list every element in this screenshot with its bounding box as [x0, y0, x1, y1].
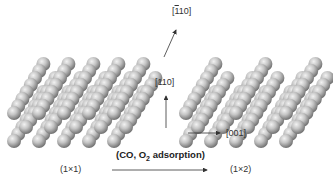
atom-sphere	[291, 120, 305, 134]
atom-sphere	[7, 134, 21, 148]
process-suffix: adsorption)	[150, 149, 205, 160]
atom-sphere	[266, 120, 280, 134]
atom-sphere	[254, 134, 268, 148]
atom-sphere	[107, 134, 121, 148]
atom-sphere	[19, 120, 33, 134]
atom-sphere	[82, 106, 96, 120]
surface-1x1-model	[7, 57, 162, 148]
axis-label-001: [001]	[226, 128, 246, 138]
atom-sphere	[279, 134, 293, 148]
atom-sphere	[32, 134, 46, 148]
atom-sphere	[69, 120, 83, 134]
atom-sphere	[191, 120, 205, 134]
atom-sphere	[107, 106, 121, 120]
atom-sphere	[119, 120, 133, 134]
surface-1x2-model	[179, 57, 333, 148]
process-label: (CO, O2 adsorption)	[116, 149, 205, 162]
atom-sphere	[179, 134, 193, 148]
atom-sphere	[82, 134, 96, 148]
atom-sphere	[57, 134, 71, 148]
atom-sphere	[229, 106, 243, 120]
process-prefix: (CO, O	[116, 149, 146, 160]
label-1x2: (1×2)	[230, 164, 251, 174]
atom-sphere	[44, 120, 58, 134]
atom-sphere	[7, 106, 21, 120]
arrow-1-10	[164, 30, 176, 57]
atom-sphere	[32, 106, 46, 120]
atom-sphere	[94, 120, 108, 134]
rest: 10]	[179, 6, 192, 16]
label-1x1: (1×1)	[60, 164, 81, 174]
atom-sphere	[57, 106, 71, 120]
axis-label-1-10: [110]	[172, 6, 191, 16]
atom-sphere	[279, 106, 293, 120]
atom-sphere	[179, 106, 193, 120]
axis-label-110: [110]	[155, 77, 174, 87]
atom-sphere	[204, 134, 218, 148]
